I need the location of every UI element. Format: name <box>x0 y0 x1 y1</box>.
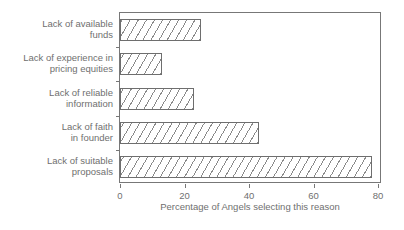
label-line: Lack of suitable <box>0 155 113 166</box>
x-axis-tick-label: 0 <box>105 190 135 201</box>
label-line: Lack of reliable <box>0 87 113 98</box>
bar-chart: Lack of availablefundsLack of experience… <box>0 0 404 230</box>
label-line: pricing equities <box>0 63 113 74</box>
y-axis-category-labels: Lack of availablefundsLack of experience… <box>0 12 113 183</box>
label-line: in founder <box>0 132 113 143</box>
y-axis-category-label: Lack of reliableinformation <box>0 87 113 109</box>
label-line: information <box>0 98 113 109</box>
bar <box>120 122 259 144</box>
x-axis-tick <box>120 184 121 188</box>
y-axis-category-label: Lack of faithin founder <box>0 121 113 143</box>
label-line: Lack of available <box>0 18 113 29</box>
y-axis-tick <box>116 150 120 151</box>
x-axis-tick-label: 20 <box>170 190 200 201</box>
x-axis-tick <box>378 184 379 188</box>
x-axis-tick <box>185 184 186 188</box>
x-axis-tick-label: 80 <box>363 190 393 201</box>
x-axis-title: Percentage of Angels selecting this reas… <box>119 201 381 213</box>
x-axis-tick-label: 40 <box>234 190 264 201</box>
label-line: funds <box>0 29 113 40</box>
label-line: Lack of experience in <box>0 52 113 63</box>
bar <box>120 53 162 75</box>
y-axis-category-label: Lack of experience inpricing equities <box>0 52 113 74</box>
y-axis-tick <box>116 116 120 117</box>
y-axis-category-label: Lack of availablefunds <box>0 18 113 40</box>
label-line: Lack of faith <box>0 121 113 132</box>
x-axis-tick <box>314 184 315 188</box>
x-axis-tick-label: 60 <box>299 190 329 201</box>
bar <box>120 156 372 178</box>
y-axis-category-label: Lack of suitableproposals <box>0 155 113 177</box>
y-axis-tick <box>116 47 120 48</box>
x-axis-tick <box>249 184 250 188</box>
plot-area: 020406080 <box>119 12 381 183</box>
bar <box>120 19 201 41</box>
bar <box>120 88 194 110</box>
label-line: proposals <box>0 166 113 177</box>
y-axis-tick <box>116 81 120 82</box>
